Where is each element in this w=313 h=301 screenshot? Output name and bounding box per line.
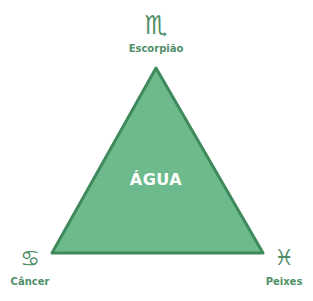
sign-label-pisces: Peixes [244,276,313,287]
sign-label-cancer: Câncer [0,276,70,287]
pisces-icon: ♓ [264,245,304,271]
element-title: ÁGUA [106,170,206,189]
sign-label-scorpio: Escorpião [116,43,196,54]
cancer-icon: ♋ [10,246,50,272]
water-element-diagram: ♏ Escorpião ÁGUA ♋ Câncer ♓ Peixes [0,0,313,301]
scorpio-icon: ♏ [136,10,176,40]
